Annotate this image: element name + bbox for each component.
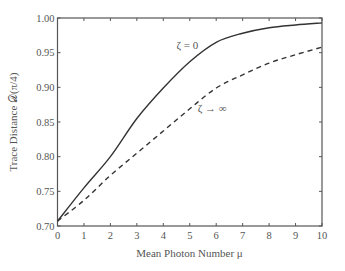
x-tick-label: 2 <box>108 230 113 241</box>
x-axis-label: Mean Photon Number μ <box>136 247 243 259</box>
x-tick-label: 6 <box>214 230 219 241</box>
series-zeta-zero-line <box>58 23 323 221</box>
y-axis-label: Trace Distance 𝒟(π/4) <box>7 72 20 171</box>
y-tick-label: 0.85 <box>36 117 54 128</box>
x-tick-label: 8 <box>266 230 271 241</box>
x-tick-label: 4 <box>161 230 167 241</box>
y-tick-label: 0.95 <box>36 47 54 58</box>
x-tick-label: 5 <box>187 230 192 241</box>
annotation-zeta-infinity: ζ → ∞ <box>198 102 227 115</box>
x-tick-label: 1 <box>81 230 86 241</box>
x-tick-label: 7 <box>240 230 245 241</box>
line-chart: 0123456789100.700.750.800.850.900.951.00… <box>0 0 345 271</box>
x-tick-label: 3 <box>134 230 139 241</box>
series-zeta-infinity-line <box>58 47 323 221</box>
x-tick-label: 9 <box>293 230 298 241</box>
y-tick-label: 0.90 <box>36 82 54 93</box>
x-tick-label: 10 <box>317 230 328 241</box>
annotation-zeta-zero: ζ = 0 <box>177 39 199 52</box>
y-tick-label: 0.80 <box>36 151 54 162</box>
y-tick-label: 0.75 <box>36 186 54 197</box>
x-tick-label: 0 <box>55 230 60 241</box>
y-tick-label: 1.00 <box>36 13 54 24</box>
y-tick-label: 0.70 <box>36 221 54 232</box>
